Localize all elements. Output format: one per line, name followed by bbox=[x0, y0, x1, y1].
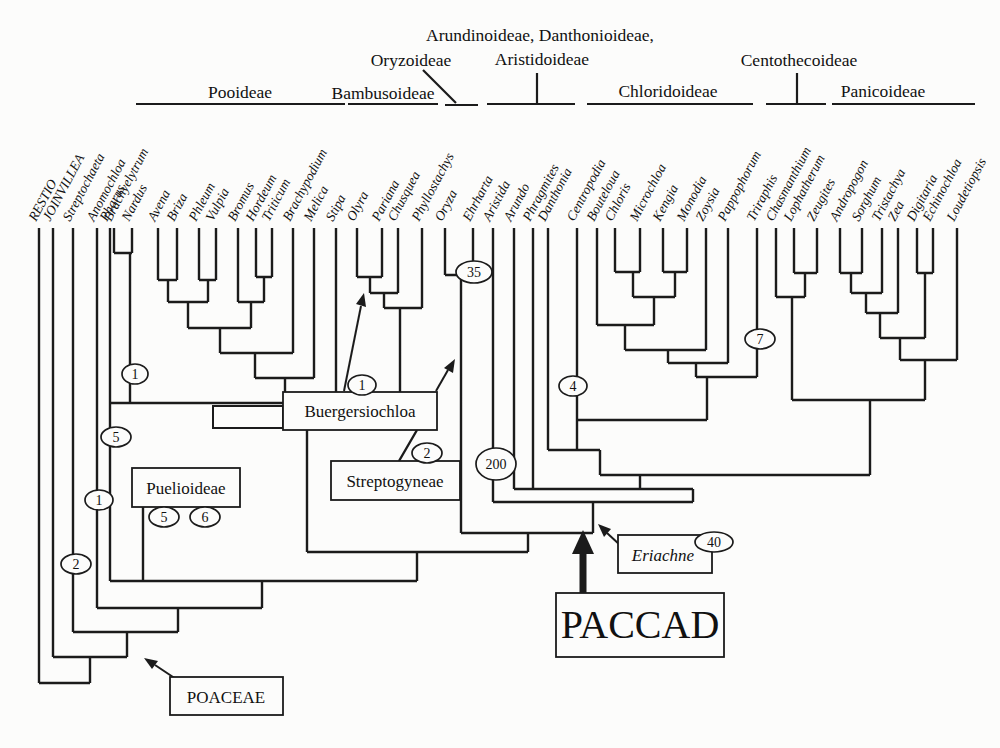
count-anomochloa: 1 bbox=[85, 490, 113, 510]
wide-branch-corridor bbox=[213, 406, 283, 428]
eriachne-arrow bbox=[598, 524, 620, 545]
puelioideae-box: Puelioideae bbox=[132, 468, 240, 507]
label-oryzoideae: Oryzoideae bbox=[371, 50, 452, 70]
count-buergersiochloa: 1 bbox=[348, 375, 376, 395]
count-centropodia-value: 4 bbox=[570, 379, 577, 394]
count-buergersiochloa-value: 1 bbox=[359, 378, 366, 393]
count-oryzoideae-value: 35 bbox=[467, 265, 481, 280]
paccad-box-label: PACCAD bbox=[561, 602, 720, 647]
count-puelioideae-right: 6 bbox=[190, 507, 220, 527]
count-streptochaeta: 2 bbox=[61, 554, 91, 574]
buergersiochloa-box: Buergersiochloa bbox=[283, 392, 437, 430]
poaceae-box: POACEAE bbox=[170, 677, 283, 715]
phylogeny-figure: Arundinoideae, Danthonioideae, Oryzoidea… bbox=[0, 0, 1000, 748]
eriachne-box-label: Eriachne bbox=[631, 546, 695, 565]
buergersiochloa-box-label: Buergersiochloa bbox=[304, 402, 416, 421]
paccad-bold-arrow bbox=[572, 530, 594, 593]
puelioideae-box-label: Puelioideae bbox=[146, 479, 225, 498]
count-anomochloa-value: 1 bbox=[96, 493, 103, 508]
count-pharus: 5 bbox=[101, 427, 131, 447]
paccad-box: PACCAD bbox=[556, 593, 724, 657]
label-arundinoideae-danthonioideae: Arundinoideae, Danthonioideae, bbox=[426, 25, 654, 45]
count-triraphis: 7 bbox=[745, 329, 775, 349]
count-puelioideae-right-value: 6 bbox=[202, 510, 209, 525]
count-streptogyneae-value: 2 bbox=[424, 446, 431, 461]
taxon-label-olyra: Olyra bbox=[343, 188, 371, 223]
cladogram-svg: Arundinoideae, Danthonioideae, Oryzoidea… bbox=[0, 0, 1000, 748]
label-bambusoideae: Bambusoideae bbox=[331, 83, 434, 103]
count-pharus-value: 5 bbox=[113, 430, 120, 445]
streptogyneae-box-label: Streptogyneae bbox=[346, 472, 443, 491]
count-centropodia: 4 bbox=[559, 376, 587, 396]
count-brachyelytrum-nardus: 1 bbox=[122, 364, 148, 384]
count-puelioideae-left: 5 bbox=[149, 507, 179, 527]
count-eriachne-value: 40 bbox=[707, 535, 721, 550]
count-puelioideae-left-value: 5 bbox=[161, 510, 168, 525]
count-eriachne: 40 bbox=[695, 532, 733, 552]
streptogyneae-box: Streptogyneae bbox=[331, 461, 460, 500]
poaceae-box-label: POACEAE bbox=[187, 688, 265, 707]
count-aristida: 200 bbox=[476, 448, 516, 480]
count-streptochaeta-value: 2 bbox=[73, 557, 80, 572]
label-chloridoideae: Chloridoideae bbox=[618, 81, 717, 101]
label-panicoideae: Panicoideae bbox=[841, 81, 926, 101]
count-streptogyneae: 2 bbox=[412, 443, 442, 463]
count-aristida-value: 200 bbox=[486, 457, 507, 472]
label-centothecoideae: Centothecoideae bbox=[741, 50, 858, 70]
poaceae-arrow bbox=[144, 658, 176, 679]
label-pooideae: Pooideae bbox=[208, 82, 272, 102]
streptogyneae-arrow bbox=[436, 359, 455, 391]
count-triraphis-value: 7 bbox=[757, 332, 764, 347]
count-oryzoideae: 35 bbox=[456, 261, 492, 283]
label-aristidoideae: Aristidoideae bbox=[495, 49, 590, 69]
count-brachyelytrum-nardus-value: 1 bbox=[132, 367, 139, 382]
